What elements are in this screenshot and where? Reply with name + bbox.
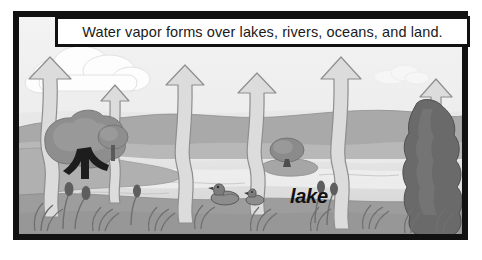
foreground-bank-shade [19, 211, 462, 234]
illustration-screenshot: lake Water vapor forms over lakes, river… [0, 0, 482, 260]
caption-box: Water vapor forms over lakes, rivers, oc… [55, 16, 470, 47]
water-cycle-scene [19, 17, 462, 234]
lake-label: lake [290, 185, 328, 208]
scene-svg [19, 17, 462, 234]
caption-text: Water vapor forms over lakes, rivers, oc… [82, 24, 442, 40]
